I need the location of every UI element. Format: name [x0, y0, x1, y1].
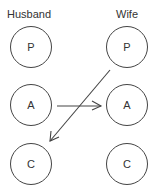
- arrow-adult-to-adult: [57, 101, 101, 110]
- edges-layer: [0, 0, 160, 196]
